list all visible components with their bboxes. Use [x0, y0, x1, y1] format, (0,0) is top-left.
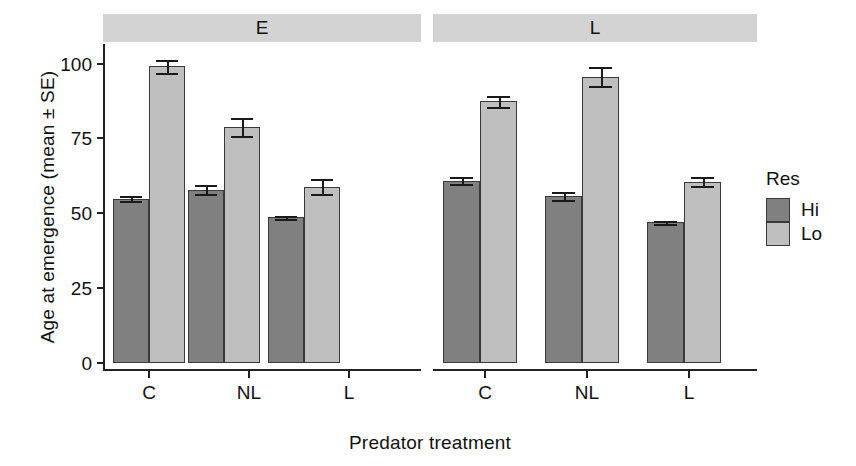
x-tick-label-e-c: C — [142, 382, 156, 404]
x-tick-label-e-nl: NL — [237, 382, 261, 404]
error-bar-e-nl-lo — [242, 118, 244, 136]
panel-e-plot — [103, 44, 421, 369]
legend-swatch-hi-icon — [766, 198, 790, 222]
x-tick-mark-e-nl — [248, 371, 250, 378]
x-tick-mark-l-nl — [586, 371, 588, 378]
bar-e-l-lo[interactable] — [304, 187, 340, 363]
error-cap-lower-l-l-lo — [691, 186, 714, 188]
error-cap-upper-e-c-lo — [156, 60, 178, 62]
legend-swatch-lo-icon — [766, 222, 790, 246]
x-tick-label-l-l: L — [684, 382, 695, 404]
bar-e-c-lo[interactable] — [149, 66, 185, 363]
x-tick-mark-l-l — [688, 371, 690, 378]
x-tick-mark-l-c — [484, 371, 486, 378]
error-cap-lower-l-nl-lo — [589, 86, 612, 88]
x-axis-title: Predator treatment — [103, 432, 757, 454]
error-cap-lower-l-c-hi — [450, 184, 473, 186]
error-cap-lower-l-nl-hi — [552, 200, 575, 202]
error-cap-lower-l-l-hi — [654, 224, 677, 226]
error-cap-upper-l-nl-hi — [552, 192, 575, 194]
x-tick-mark-e-c — [148, 371, 150, 378]
x-tick-label-l-nl: NL — [575, 382, 599, 404]
legend: Res Hi Lo — [766, 168, 822, 246]
panel-strip-e: E — [103, 14, 421, 42]
panel-l-plot — [433, 44, 757, 369]
error-cap-upper-e-l-lo — [311, 179, 333, 181]
y-tick-label-0: 0 — [48, 354, 92, 373]
legend-label-lo: Lo — [801, 223, 822, 245]
bar-l-l-hi[interactable] — [647, 222, 684, 363]
error-cap-upper-e-l-hi — [275, 216, 297, 218]
y-tick-label-75: 75 — [48, 129, 92, 148]
bar-e-c-hi[interactable] — [113, 199, 149, 363]
x-axis-line-e — [103, 369, 421, 371]
legend-row-lo[interactable]: Lo — [766, 222, 822, 246]
bar-e-l-hi[interactable] — [268, 217, 304, 363]
chart-figure: Age at emergence (mean ± SE) 100 75 50 2… — [0, 0, 856, 466]
bar-e-nl-hi[interactable] — [188, 190, 224, 363]
bar-e-nl-lo[interactable] — [224, 127, 260, 363]
bar-l-nl-lo[interactable] — [582, 77, 619, 363]
error-cap-upper-e-nl-hi — [195, 185, 217, 187]
x-tick-label-e-l: L — [344, 382, 355, 404]
panel-strip-l: L — [433, 14, 757, 42]
error-bar-l-nl-lo — [601, 67, 603, 86]
y-tick-label-50: 50 — [48, 204, 92, 223]
x-tick-label-l-c: C — [478, 382, 492, 404]
error-cap-upper-l-c-hi — [450, 177, 473, 179]
error-cap-lower-e-c-hi — [120, 201, 142, 203]
bar-l-l-lo[interactable] — [684, 182, 721, 363]
error-cap-upper-e-nl-lo — [231, 118, 253, 120]
error-cap-lower-e-nl-lo — [231, 136, 253, 138]
bar-l-c-lo[interactable] — [480, 101, 517, 363]
bar-l-nl-hi[interactable] — [545, 196, 582, 363]
x-axis-line-l — [433, 369, 757, 371]
bar-l-c-hi[interactable] — [443, 181, 480, 363]
y-tick-label-100: 100 — [48, 55, 92, 74]
legend-label-hi: Hi — [801, 199, 819, 221]
legend-title: Res — [766, 168, 822, 190]
error-cap-lower-l-c-lo — [487, 107, 510, 109]
y-tick-label-25: 25 — [48, 279, 92, 298]
error-cap-upper-l-c-lo — [487, 96, 510, 98]
error-bar-e-l-lo — [322, 179, 324, 195]
error-cap-upper-e-c-hi — [120, 196, 142, 198]
error-cap-upper-l-nl-lo — [589, 67, 612, 69]
x-tick-mark-e-l — [348, 371, 350, 378]
error-cap-lower-e-l-lo — [311, 194, 333, 196]
error-cap-lower-e-l-hi — [275, 219, 297, 221]
legend-row-hi[interactable]: Hi — [766, 198, 822, 222]
error-cap-lower-e-c-lo — [156, 73, 178, 75]
error-cap-lower-e-nl-hi — [195, 194, 217, 196]
error-cap-upper-l-l-lo — [691, 177, 714, 179]
error-cap-upper-l-l-hi — [654, 221, 677, 223]
